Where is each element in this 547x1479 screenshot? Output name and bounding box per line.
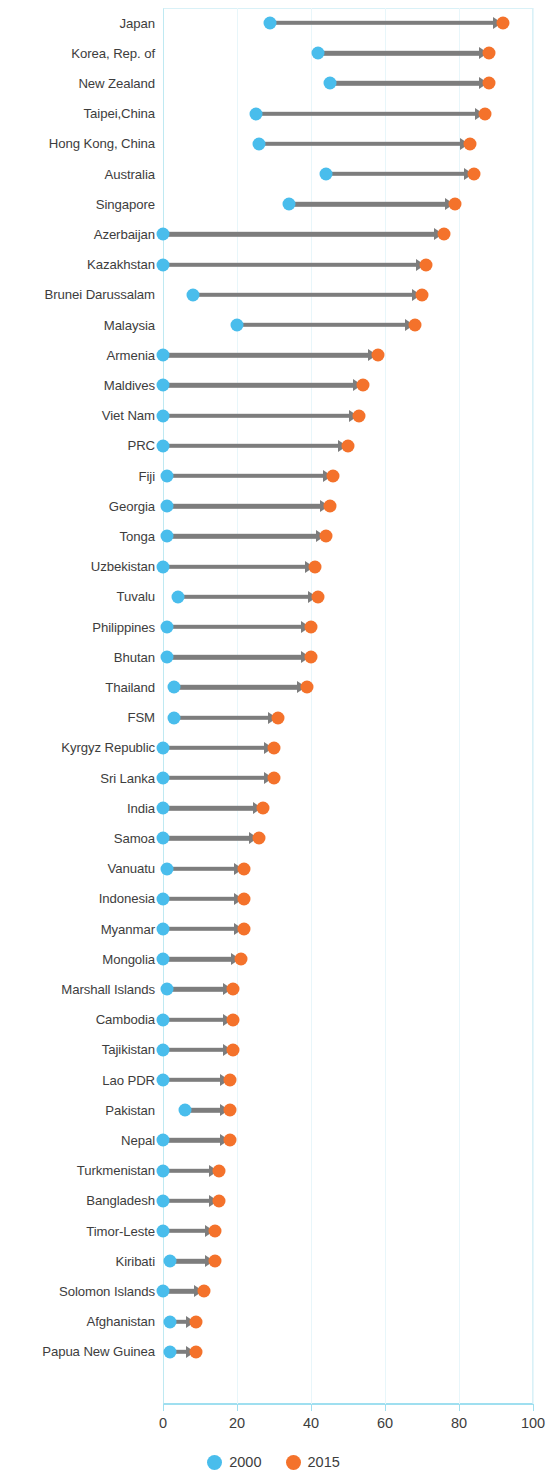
data-point-2015 [197, 1285, 210, 1298]
chart-row: Timor-Leste [0, 1216, 547, 1246]
data-point-2015 [449, 198, 462, 211]
category-label: Australia [0, 159, 155, 189]
change-connector [163, 1078, 222, 1082]
data-point-2015 [238, 923, 251, 936]
change-connector [270, 21, 495, 25]
row-track [163, 1125, 533, 1155]
chart-row: Tonga [0, 521, 547, 551]
change-connector [163, 957, 233, 961]
chart-row: Armenia [0, 340, 547, 370]
change-connector [174, 685, 299, 689]
category-label: Bangladesh [0, 1186, 155, 1216]
chart-row: Fiji [0, 461, 547, 491]
data-point-2015 [312, 590, 325, 603]
data-point-2000 [249, 107, 262, 120]
data-point-2015 [464, 137, 477, 150]
category-label: Azerbaijan [0, 219, 155, 249]
chart-row: FSM [0, 703, 547, 733]
chart-row: India [0, 793, 547, 823]
chart-row: Indonesia [0, 884, 547, 914]
category-label: Georgia [0, 491, 155, 521]
category-label: Timor-Leste [0, 1216, 155, 1246]
data-point-2015 [208, 1255, 221, 1268]
row-track [163, 340, 533, 370]
change-connector [163, 1138, 222, 1142]
category-label: Pakistan [0, 1095, 155, 1125]
chart-row: Tuvalu [0, 582, 547, 612]
legend-item[interactable]: 2000 [207, 1454, 261, 1470]
category-label: Thailand [0, 672, 155, 702]
data-point-2000 [179, 1104, 192, 1117]
x-axis-line [163, 1404, 533, 1405]
row-track [163, 974, 533, 1004]
data-point-2000 [231, 319, 244, 332]
data-point-2000 [157, 1043, 170, 1056]
chart-row: Singapore [0, 189, 547, 219]
data-point-2000 [157, 802, 170, 815]
row-track [163, 642, 533, 672]
chart-row: Hong Kong, China [0, 129, 547, 159]
chart-row: Samoa [0, 823, 547, 853]
data-point-2015 [223, 1074, 236, 1087]
data-point-2015 [208, 1225, 221, 1238]
change-connector [163, 232, 436, 236]
category-label: Korea, Rep. of [0, 38, 155, 68]
legend-item[interactable]: 2015 [286, 1454, 340, 1470]
data-point-2015 [342, 439, 355, 452]
category-label: Brunei Darussalam [0, 280, 155, 310]
change-connector [330, 81, 481, 85]
data-point-2015 [482, 47, 495, 60]
data-point-2000 [160, 651, 173, 664]
chart-row: Marshall Islands [0, 974, 547, 1004]
data-point-2015 [271, 711, 284, 724]
data-point-2000 [160, 983, 173, 996]
category-label: Philippines [0, 612, 155, 642]
legend-label: 2015 [308, 1454, 340, 1470]
data-point-2015 [238, 892, 251, 905]
data-point-2000 [164, 1345, 177, 1358]
chart-row: Bhutan [0, 642, 547, 672]
data-point-2000 [157, 1225, 170, 1238]
category-label: Tonga [0, 521, 155, 551]
data-point-2015 [305, 651, 318, 664]
chart-row: Turkmenistan [0, 1156, 547, 1186]
data-point-2000 [157, 1285, 170, 1298]
data-point-2000 [319, 168, 332, 181]
change-connector [163, 413, 351, 417]
legend-swatch-icon [207, 1455, 222, 1470]
change-connector [167, 534, 318, 538]
chart-row: Korea, Rep. of [0, 38, 547, 68]
row-track [163, 310, 533, 340]
row-track [163, 1246, 533, 1276]
row-track [163, 552, 533, 582]
data-point-2000 [157, 228, 170, 241]
x-tick-label: 80 [451, 1415, 467, 1431]
data-point-2015 [234, 953, 247, 966]
chart-row: Maldives [0, 370, 547, 400]
change-connector [163, 927, 236, 931]
chart-row: Taipei,China [0, 99, 547, 129]
change-connector [163, 1017, 225, 1021]
row-track [163, 884, 533, 914]
x-tick-0 [163, 1404, 164, 1411]
change-connector [163, 383, 355, 387]
legend-label: 2000 [229, 1454, 261, 1470]
category-label: Solomon Islands [0, 1276, 155, 1306]
data-point-2015 [371, 349, 384, 362]
data-point-2000 [157, 1194, 170, 1207]
category-label: Vanuatu [0, 854, 155, 884]
chart-row: Kazakhstan [0, 250, 547, 280]
data-point-2000 [282, 198, 295, 211]
data-point-2000 [157, 258, 170, 271]
change-connector [318, 51, 480, 55]
category-label: Nepal [0, 1125, 155, 1155]
category-label: Afghanistan [0, 1307, 155, 1337]
change-connector [289, 202, 448, 206]
data-point-2000 [160, 530, 173, 543]
row-track [163, 8, 533, 38]
category-label: Uzbekistan [0, 552, 155, 582]
category-label: Papua New Guinea [0, 1337, 155, 1367]
chart-row: Solomon Islands [0, 1276, 547, 1306]
data-point-2015 [497, 17, 510, 30]
change-connector [163, 806, 255, 810]
